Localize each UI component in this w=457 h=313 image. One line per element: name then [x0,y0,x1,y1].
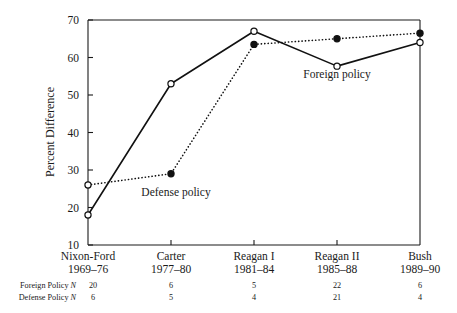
marker-foreign-policy-2 [251,28,257,34]
y-axis-tick-labels: 10203040506070 [68,14,80,251]
y-tick-label-70: 70 [68,14,80,26]
chart-figure: 10203040506070 Percent Difference Foreig… [0,0,457,313]
chart-canvas: 10203040506070 Percent Difference Foreig… [0,0,457,313]
y-axis-title: Percent Difference [43,87,57,177]
series-line-foreign-policy [88,31,420,215]
n-row-0-value-1: 6 [169,281,173,290]
marker-defense-policy-2 [251,41,257,47]
x-category-label-3: Reagan II [314,250,359,263]
n-row-0-value-3: 22 [333,281,341,290]
marker-defense-policy-4 [417,30,423,36]
y-tick-label-30: 30 [68,164,80,176]
x-category-label-4: Bush [408,250,432,262]
n-row-1-value-4: 4 [418,293,422,302]
series-annotations: Foreign policyDefense policy [141,68,371,199]
x-category-label-1: Carter [157,250,186,262]
marker-defense-policy-0 [85,182,91,188]
marker-foreign-policy-0 [85,212,91,218]
annotation-foreign-policy: Foreign policy [303,68,371,81]
x-category-years-3: 1985–88 [317,263,358,275]
y-tick-label-50: 50 [68,89,80,101]
y-tick-label-40: 40 [68,127,80,139]
x-axis-category-labels: Nixon-Ford1969–76Carter1977–80Reagan I19… [61,250,441,275]
y-tick-label-20: 20 [68,202,80,214]
n-row-0-value-2: 5 [252,281,256,290]
series-lines [88,31,420,215]
marker-defense-policy-1 [168,171,174,177]
annotation-defense-policy: Defense policy [141,186,211,199]
x-category-years-4: 1989–90 [400,263,441,275]
marker-foreign-policy-4 [417,39,423,45]
marker-foreign-policy-1 [168,81,174,87]
n-row-1-value-3: 21 [333,293,341,302]
x-category-label-0: Nixon-Ford [61,250,116,262]
y-tick-label-60: 60 [68,52,80,64]
x-category-years-1: 1977–80 [151,263,192,275]
n-row-1-value-0: 6 [91,293,95,302]
n-row-0-value-0: 20 [89,281,97,290]
marker-defense-policy-3 [334,36,340,42]
n-row-label-0: Foreign Policy N [20,281,77,290]
n-row-1-value-2: 4 [252,293,256,302]
n-row-1-value-1: 5 [169,293,173,302]
x-category-years-0: 1969–76 [68,263,109,275]
x-axis-ticks [171,240,337,245]
plot-frame [88,20,420,245]
n-row-label-1: Defense Policy N [19,293,77,302]
n-value-table: Foreign Policy N2065226Defense Policy N6… [19,281,422,302]
x-category-years-2: 1981–84 [234,263,275,275]
x-category-label-2: Reagan I [233,250,274,263]
n-row-0-value-4: 6 [418,281,422,290]
